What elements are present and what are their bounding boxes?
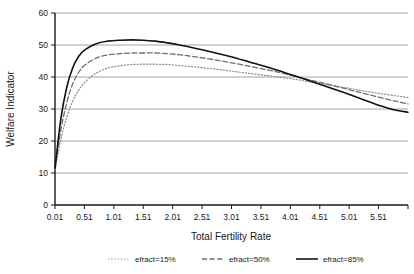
legend-label-efract-15-: efract=15% [135,255,176,264]
welfare-indicator-line-chart: 0102030405060 0.010.511.011.512.012.513.… [0,0,414,274]
x-tick-label-2.51: 2.51 [194,212,211,222]
x-tick-label-1.01: 1.01 [106,212,123,222]
y-tick-label-10: 10 [39,168,49,178]
x-tick-label-3.01: 3.01 [223,212,240,222]
chart-container: 0102030405060 0.010.511.011.512.012.513.… [0,0,414,274]
x-tick-label-3.51: 3.51 [253,212,270,222]
x-tick-label-4.51: 4.51 [311,212,328,222]
x-tick-label-2.01: 2.01 [164,212,181,222]
y-tick-label-30: 30 [39,104,49,114]
legend: efract=15%efract=50%efract=85% [108,255,364,264]
y-tick-label-60: 60 [39,8,49,18]
y-tick-label-40: 40 [39,72,49,82]
x-tick-label-5.01: 5.01 [341,212,358,222]
x-tick-label-0.51: 0.51 [76,212,93,222]
y-tick-label-50: 50 [39,40,49,50]
y-tick-label-20: 20 [39,136,49,146]
x-tick-label-0.01: 0.01 [47,212,64,222]
y-tick-label-0: 0 [43,200,48,210]
legend-label-efract-50-: efract=50% [229,255,270,264]
x-axis-title: Total Fertility Rate [191,231,271,242]
legend-label-efract-85-: efract=85% [323,255,364,264]
y-axis-title: Welfare Indicator [5,71,16,147]
x-tick-label-5.51: 5.51 [370,212,387,222]
x-tick-label-1.51: 1.51 [135,212,152,222]
x-tick-label-4.01: 4.01 [282,212,299,222]
